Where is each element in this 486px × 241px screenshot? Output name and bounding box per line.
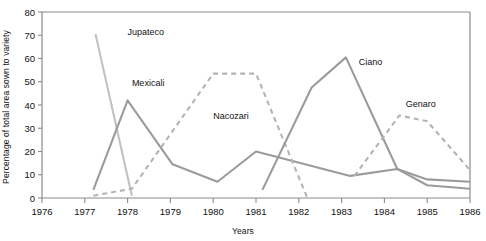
- data-series-group: [93, 34, 470, 198]
- y-tick-label: 10: [24, 169, 35, 180]
- series-line-nacozari: [93, 74, 307, 198]
- y-tick-label: 60: [24, 53, 35, 64]
- y-tick-label: 70: [24, 30, 35, 41]
- series-label-mexicali: Mexicali: [132, 78, 165, 88]
- series-line-genaro: [354, 115, 470, 175]
- series-line-ciano: [262, 57, 470, 190]
- y-axis-ticks: 01020304050607080: [24, 7, 42, 204]
- x-tick-label: 1986: [459, 206, 480, 217]
- y-tick-label: 40: [24, 100, 35, 111]
- x-tick-label: 1984: [374, 206, 395, 217]
- x-tick-label: 1978: [117, 206, 138, 217]
- line-chart-plot: 01020304050607080 1976197719781979198019…: [0, 0, 486, 241]
- y-tick-label: 0: [30, 193, 35, 204]
- y-tick-label: 50: [24, 76, 35, 87]
- x-axis-ticks: 1976197719781979198019811982198319841985…: [31, 198, 480, 217]
- x-tick-label: 1976: [31, 206, 52, 217]
- series-label-genaro: Genaro: [406, 99, 436, 109]
- x-tick-label: 1985: [417, 206, 438, 217]
- x-tick-label: 1983: [331, 206, 352, 217]
- series-label-nacozari: Nacozari: [213, 111, 249, 121]
- series-line-mexicali: [93, 100, 470, 190]
- x-tick-label: 1980: [203, 206, 224, 217]
- series-label-ciano: Ciano: [359, 57, 383, 67]
- series-label-jupateco: Jupateco: [128, 27, 165, 37]
- x-tick-label: 1977: [74, 206, 95, 217]
- y-tick-label: 30: [24, 123, 35, 134]
- x-tick-label: 1981: [245, 206, 266, 217]
- y-tick-label: 20: [24, 146, 35, 157]
- chart-container: Percentage of total area sown to variety…: [0, 0, 486, 241]
- series-labels-group: JupatecoMexicaliNacozariCianoGenaro: [128, 27, 436, 121]
- x-tick-label: 1982: [288, 206, 309, 217]
- x-tick-label: 1979: [160, 206, 181, 217]
- y-tick-label: 80: [24, 7, 35, 18]
